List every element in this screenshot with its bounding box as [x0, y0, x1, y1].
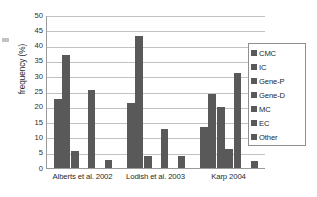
legend-item[interactable]: IC [251, 60, 305, 74]
bar [234, 73, 242, 168]
y-axis-tick-label: 45 [27, 27, 43, 35]
chart-legend: CMCICGene-PGene-DMCECOther [248, 43, 306, 146]
scan-edge-mark [2, 38, 9, 42]
legend-swatch-icon [251, 64, 257, 70]
x-axis-tick-labels: Alberts et al. 2002Lodish et al. 2003Kar… [46, 172, 265, 186]
legend-label: MC [259, 105, 271, 114]
legend-item[interactable]: Gene-D [251, 88, 305, 102]
y-axis-tick-labels: 05101520253035404550 [25, 0, 43, 197]
bar-chart-figure: frequency (%) 05101520253035404550 Alber… [0, 0, 317, 197]
y-axis-tick-label: 50 [27, 12, 43, 20]
bar [127, 103, 135, 168]
plot-area [46, 16, 265, 169]
legend-swatch-icon [251, 106, 257, 112]
legend-swatch-icon [251, 92, 257, 98]
legend-swatch-icon [251, 50, 257, 56]
y-axis-tick-label: 35 [27, 57, 43, 65]
legend-swatch-icon [251, 120, 257, 126]
bar [62, 55, 70, 168]
x-axis-tick-label: Lodish et al. 2003 [119, 172, 192, 181]
legend-item[interactable]: EC [251, 116, 305, 130]
legend-item[interactable]: Other [251, 130, 305, 144]
legend-label: CMC [259, 49, 276, 58]
bar-series-group [47, 16, 265, 168]
bar [200, 127, 208, 168]
legend-item[interactable]: MC [251, 102, 305, 116]
bar [208, 94, 216, 168]
y-axis-tick-label: 15 [27, 119, 43, 127]
y-axis-tick-label: 5 [27, 149, 43, 157]
legend-item[interactable]: Gene-P [251, 74, 305, 88]
legend-swatch-icon [251, 134, 257, 140]
y-axis-tick-label: 20 [27, 103, 43, 111]
y-axis-tick-label: 10 [27, 134, 43, 142]
bar [225, 149, 233, 168]
legend-label: Other [259, 133, 278, 142]
legend-swatch-icon [251, 78, 257, 84]
bar [54, 99, 62, 168]
y-axis-tick-label: 30 [27, 73, 43, 81]
legend-label: EC [259, 119, 269, 128]
bar [105, 160, 113, 168]
bar [144, 156, 152, 168]
y-axis-tick-label: 0 [27, 165, 43, 173]
bar [135, 36, 143, 168]
bar [217, 107, 225, 169]
legend-label: Gene-P [259, 77, 285, 86]
bar [71, 151, 79, 168]
bar [88, 90, 96, 168]
legend-item[interactable]: CMC [251, 46, 305, 60]
legend-label: IC [259, 63, 266, 72]
bar [161, 129, 169, 168]
y-axis-tick-label: 25 [27, 88, 43, 96]
legend-label: Gene-D [259, 91, 285, 100]
bar [251, 161, 259, 168]
bar [178, 156, 186, 168]
x-axis-tick-label: Alberts et al. 2002 [46, 172, 119, 181]
y-axis-tick-label: 40 [27, 42, 43, 50]
x-axis-tick-label: Karp 2004 [192, 172, 265, 181]
